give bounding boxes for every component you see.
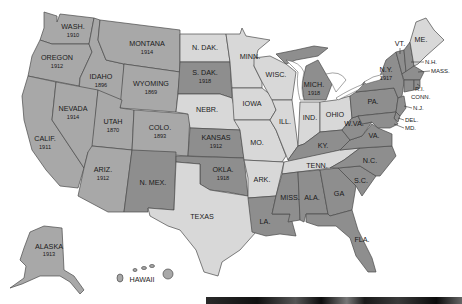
label-calif: CALIF. <box>34 134 56 143</box>
year-sdak: 1918 <box>199 78 211 84</box>
label-okla: OKLA. <box>212 165 233 174</box>
year-colo: 1893 <box>154 133 166 139</box>
label-idaho: IDAHO <box>90 72 113 81</box>
label-ariz: ARIZ. <box>94 165 112 174</box>
year-kansas: 1912 <box>210 143 222 149</box>
label-mich: MICH. <box>304 80 324 89</box>
label-va: VA. <box>368 131 379 140</box>
label-nc: N.C. <box>363 156 377 165</box>
us-suffrage-map: WASH. 1910 OREGON 1912 MONTANA 1914 IDAH… <box>0 0 462 304</box>
year-montana: 1914 <box>141 49 153 55</box>
label-ala: ALA. <box>304 193 320 202</box>
label-sc: S.C. <box>354 176 368 185</box>
label-nj: N.J. <box>413 105 424 111</box>
label-ga: GA <box>334 189 345 198</box>
state-wyoming[interactable] <box>120 64 180 112</box>
label-iowa: IOWA <box>243 99 262 108</box>
label-md: MD. <box>405 125 416 131</box>
label-mass: MASS. <box>431 68 450 74</box>
year-okla: 1918 <box>217 175 229 181</box>
label-montana: MONTANA <box>129 39 165 48</box>
label-oregon: OREGON <box>41 53 73 62</box>
label-ri: R.I. <box>415 86 425 92</box>
label-ark: ARK. <box>254 175 271 184</box>
year-nevada: 1914 <box>67 114 79 120</box>
label-ny: N.Y. <box>379 65 392 74</box>
label-colo: COLO. <box>149 123 171 132</box>
label-la: LA. <box>260 217 271 226</box>
label-nh: N.H. <box>425 59 437 65</box>
label-sdak: S. DAK. <box>192 68 218 77</box>
northeast-states <box>350 18 444 128</box>
label-hawaii: HAWAII <box>129 275 154 284</box>
label-kansas: KANSAS <box>201 133 230 142</box>
year-alaska: 1913 <box>43 251 55 257</box>
label-utah: UTAH <box>103 117 122 126</box>
year-wash: 1910 <box>67 32 79 38</box>
label-conn: CONN. <box>411 94 431 100</box>
label-ky: KY. <box>318 141 329 150</box>
label-fla: FLA. <box>354 235 369 244</box>
label-alaska: ALASKA <box>35 242 63 251</box>
label-del: DEL. <box>405 117 419 123</box>
year-oregon: 1912 <box>51 63 63 69</box>
label-tenn: TENN. <box>306 161 328 170</box>
label-nmex: N. MEX. <box>140 178 167 187</box>
label-minn: MINN. <box>240 52 260 61</box>
label-ndak: N. DAK. <box>192 43 218 52</box>
label-wva: W.VA. <box>344 119 363 128</box>
label-nevada: NEVADA <box>58 104 87 113</box>
label-pa: PA. <box>367 97 378 106</box>
label-miss: MISS. <box>280 193 300 202</box>
year-ariz: 1912 <box>97 175 109 181</box>
year-ny: 1917 <box>380 75 392 81</box>
label-ohio: OHIO <box>326 110 345 119</box>
label-ill: ILL. <box>279 117 291 126</box>
label-vt: VT. <box>395 39 405 48</box>
label-me: ME. <box>415 35 428 44</box>
bottom-edge-strip <box>206 297 462 304</box>
label-wash: WASH. <box>61 22 84 31</box>
year-wyoming: 1869 <box>145 89 157 95</box>
label-texas: TEXAS <box>190 212 214 221</box>
year-calif: 1911 <box>39 144 51 150</box>
year-mich: 1918 <box>308 90 320 96</box>
year-idaho: 1896 <box>95 82 107 88</box>
label-nebr: NEBR. <box>196 105 218 114</box>
label-wisc: WISC. <box>266 70 287 79</box>
label-mo: MO. <box>250 138 264 147</box>
state-conn[interactable] <box>404 80 414 92</box>
year-utah: 1870 <box>107 127 119 133</box>
label-wyoming: WYOMING <box>133 79 169 88</box>
state-alaska[interactable] <box>10 226 84 294</box>
label-ind: IND. <box>303 113 317 122</box>
state-mich-upper[interactable] <box>276 46 328 64</box>
